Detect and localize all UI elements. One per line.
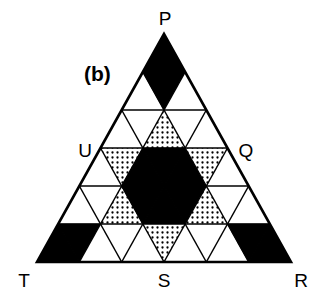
cell-black [143, 34, 185, 72]
vertex-label-s: S [158, 270, 171, 291]
vertex-label-u: U [78, 140, 92, 161]
vertex-label-t: T [18, 270, 30, 291]
vertex-label-r: R [294, 270, 308, 291]
ternary-triangle-diagram: (b) P U Q T S R [0, 0, 312, 304]
vertex-label-p: P [159, 8, 172, 29]
vertex-label-q: Q [239, 140, 254, 161]
panel-label: (b) [84, 62, 111, 85]
